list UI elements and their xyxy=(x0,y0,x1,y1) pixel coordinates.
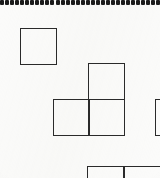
rule-dot xyxy=(45,0,49,5)
rule-dot xyxy=(76,0,80,5)
dotted-rule xyxy=(0,0,160,7)
rule-dot xyxy=(86,0,90,5)
rule-dot xyxy=(91,0,95,5)
rule-dot xyxy=(25,0,29,5)
rule-dot xyxy=(0,0,4,5)
rule-dot xyxy=(30,0,34,5)
rule-dot xyxy=(15,0,19,5)
clipped-square-bottom-right xyxy=(124,166,160,178)
rule-dot xyxy=(71,0,75,5)
rule-dot xyxy=(151,0,155,5)
rule-dot xyxy=(66,0,70,5)
rule-dot xyxy=(106,0,110,5)
rule-dot xyxy=(136,0,140,5)
l-tromino-left-square xyxy=(53,99,90,136)
rule-dot xyxy=(35,0,39,5)
rule-dot xyxy=(101,0,105,5)
l-tromino-right-square xyxy=(88,99,125,136)
rule-dot xyxy=(146,0,150,5)
rule-dot xyxy=(81,0,85,5)
rule-dot xyxy=(40,0,44,5)
single-square xyxy=(20,28,57,65)
rule-dot xyxy=(156,0,160,5)
rule-dot xyxy=(5,0,9,5)
figure-canvas xyxy=(0,0,160,178)
paper-tint-overlay xyxy=(0,0,160,178)
rule-dot xyxy=(61,0,65,5)
rule-dot xyxy=(56,0,60,5)
rule-dot xyxy=(131,0,135,5)
rule-dot xyxy=(141,0,145,5)
clipped-square-right xyxy=(155,99,160,136)
rule-dot xyxy=(126,0,130,5)
rule-dot xyxy=(116,0,120,5)
rule-dot xyxy=(111,0,115,5)
rule-dot xyxy=(50,0,54,5)
rule-dot xyxy=(96,0,100,5)
rule-dot xyxy=(10,0,14,5)
rule-dot xyxy=(20,0,24,5)
l-tromino-top-square xyxy=(88,63,125,100)
rule-dot xyxy=(121,0,125,5)
clipped-square-bottom-left xyxy=(87,166,124,178)
vignette-overlay xyxy=(0,0,160,178)
